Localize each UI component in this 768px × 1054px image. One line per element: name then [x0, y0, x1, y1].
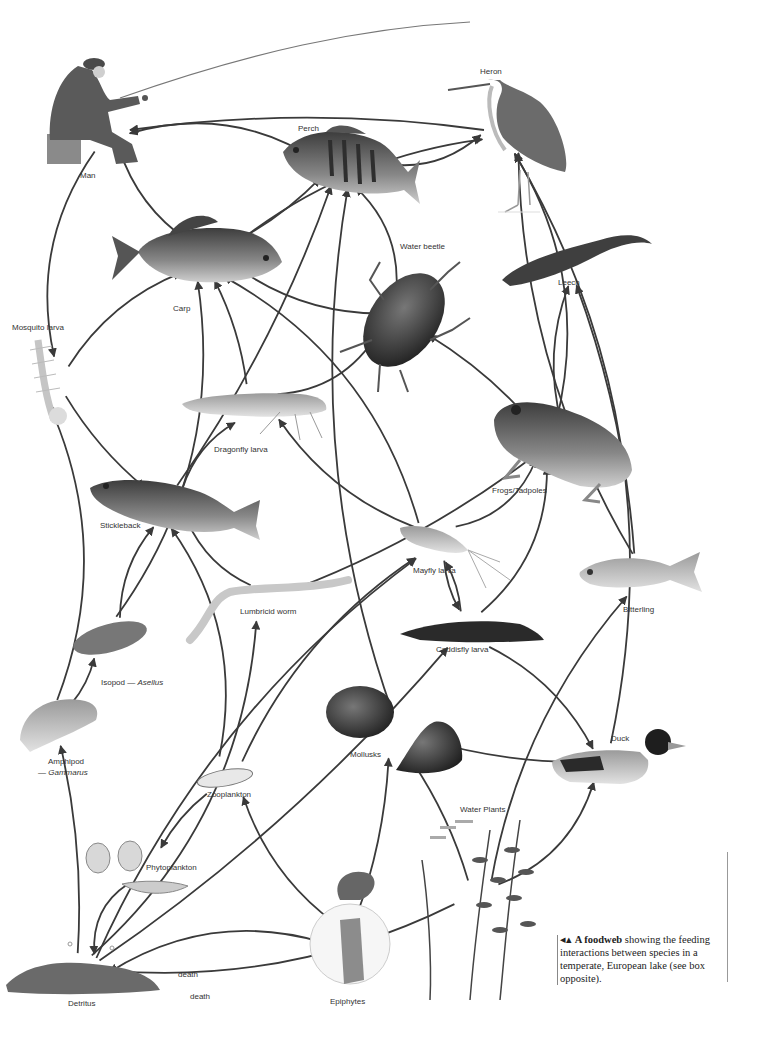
- label-detritus: Detritus: [68, 999, 96, 1008]
- edge-water-plants-to-mollusks: [409, 756, 468, 880]
- label-carp: Carp: [173, 304, 191, 313]
- label-amphipod-genus: — Gammarus: [38, 768, 88, 777]
- epiphytes-illustration: [310, 872, 390, 984]
- edge-detritus-to-caddisfly-larva: [100, 648, 448, 961]
- label-water-plants: Water Plants: [460, 805, 506, 814]
- label-isopod: Isopod — Asellus: [101, 678, 163, 687]
- label-perch: Perch: [298, 124, 319, 133]
- foodweb-diagram: Man Heron Perch Carp Water beetle: [0, 0, 768, 1054]
- isopod-illustration: [70, 615, 151, 662]
- caption-bold: A foodweb: [575, 934, 623, 945]
- mayfly-larva-illustration: [400, 526, 510, 588]
- amphipod-illustration: [20, 699, 97, 752]
- label-caddisfly-larva: Caddisfly larva: [436, 645, 489, 654]
- stickleback-illustration: [90, 480, 260, 540]
- label-bitterling: Bitterling: [623, 605, 654, 614]
- dragonfly-larva-illustration: [182, 393, 326, 440]
- edge-mosquito-larva-to-carp: [69, 273, 182, 367]
- label-frogs-tadpoles: Frogs/Tadpoles: [492, 486, 547, 495]
- edge-frogs-to-heron: [515, 154, 568, 424]
- label-mayfly-larva: Mayfly larva: [413, 566, 456, 575]
- edge-stickleback-to-dragonfly-larva: [182, 423, 235, 489]
- label-duck: Duck: [611, 734, 630, 743]
- water-beetle-illustration: [340, 258, 470, 392]
- label-epiphytes: Epiphytes: [330, 997, 365, 1006]
- edge-label-death-epiphytes: death: [178, 970, 198, 979]
- edge-amphipod-to-mosquito-larva: [49, 404, 84, 700]
- label-zooplankton: Zooplankton: [207, 790, 251, 799]
- label-man: Man: [80, 171, 96, 180]
- detritus-illustration: [6, 942, 160, 994]
- edge-epiphytes-to-zooplankton: [243, 797, 334, 923]
- edge-mosquito-larva-to-stickleback: [66, 396, 145, 487]
- mollusks-illustration: [326, 686, 462, 773]
- water-plants-illustration: [422, 820, 536, 1000]
- label-leech: Leech: [558, 278, 580, 287]
- label-mosquito-larva: Mosquito larva: [12, 323, 65, 332]
- label-mollusks: Mollusks: [350, 750, 381, 759]
- edge-water-beetle-to-perch: [356, 187, 397, 299]
- label-heron: Heron: [480, 67, 502, 76]
- edge-label-death-water-plants: death: [190, 992, 210, 1001]
- edge-detritus-to-lumbricid-worm: [92, 621, 257, 955]
- label-amphipod: Amphipod: [48, 757, 84, 766]
- label-stickleback: Stickleback: [100, 521, 141, 530]
- label-water-beetle: Water beetle: [400, 242, 446, 251]
- caption-marker-icon: ◂▴: [560, 934, 572, 945]
- figure-caption: ◂▴ A foodweb showing the feeding interac…: [560, 933, 726, 985]
- carp-illustration: [112, 216, 282, 282]
- caddisfly-larva-illustration: [400, 621, 544, 642]
- caption-rule-left: [557, 935, 558, 985]
- man-illustration: [47, 22, 470, 164]
- label-lumbricid-worm: Lumbricid worm: [240, 607, 297, 616]
- label-phytoplankton: Phytoplankton: [146, 863, 197, 872]
- perch-illustration: [283, 125, 420, 204]
- label-dragonfly-larva: Dragonfly larva: [214, 445, 268, 454]
- mosquito-larva-illustration: [30, 340, 67, 425]
- caption-rule-right: [727, 852, 728, 982]
- edge-mollusks-to-perch: [332, 189, 392, 713]
- edge-dragonfly-larva-to-carp: [215, 281, 247, 385]
- edge-water-plants-to-detritus: [110, 904, 455, 973]
- bitterling-illustration: [579, 552, 702, 592]
- edge-amphipod-to-isopod: [72, 658, 95, 703]
- edge-epiphytes-to-detritus: [110, 931, 324, 972]
